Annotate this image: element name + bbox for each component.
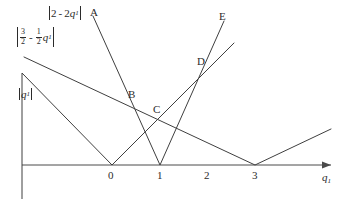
- label-minus: -: [29, 32, 33, 43]
- fraction-numerator: 3: [20, 28, 26, 36]
- function-label-abs-q1: q 1: [18, 88, 33, 100]
- x-axis: [22, 162, 331, 169]
- x-tick-label-1: 1: [157, 170, 163, 181]
- fraction-three-halves: 3 2: [20, 28, 26, 46]
- curve-abs-3halves-minus-half-q1: [24, 57, 331, 165]
- x-axis-label: q1: [322, 172, 331, 185]
- label-lead: 2: [51, 8, 57, 19]
- x-axis-label-sub: 1: [328, 177, 332, 185]
- fraction-numerator: 1: [36, 28, 42, 36]
- abs-bar-right: [80, 6, 81, 20]
- figure-canvas: 2 - 2 q 1 3 2 - 1 2 q 1 q 1 A B C D E 0 …: [0, 0, 342, 199]
- x-axis-arrowhead: [322, 162, 331, 169]
- abs-bar-right: [53, 27, 54, 47]
- function-label-abs-3halves-minus-half-q1: 3 2 - 1 2 q 1: [16, 27, 55, 47]
- abs-bar-left: [19, 88, 20, 100]
- label-sub: 1: [75, 10, 79, 17]
- point-label-d: D: [197, 56, 205, 67]
- point-label-c: C: [153, 104, 160, 115]
- label-minus: -: [59, 8, 63, 19]
- point-label-a: A: [90, 7, 98, 18]
- abs-bar-left: [49, 6, 50, 20]
- fraction-denominator: 2: [20, 37, 26, 46]
- abs-bar-left: [17, 27, 18, 47]
- label-sub: 1: [48, 34, 52, 41]
- point-label-e: E: [219, 11, 226, 22]
- curve-abs-2-minus-2q1: [93, 16, 224, 165]
- point-label-b: B: [128, 89, 135, 100]
- x-tick-label-3: 3: [252, 170, 258, 181]
- fraction-one-half: 1 2: [36, 28, 42, 46]
- fraction-denominator: 2: [36, 37, 42, 46]
- x-tick-label-0: 0: [108, 170, 114, 181]
- x-tick-label-2: 2: [204, 170, 210, 181]
- label-sub: 1: [27, 91, 31, 98]
- abs-bar-right: [31, 88, 32, 100]
- function-label-abs-2-minus-2q1: 2 - 2 q 1: [48, 6, 82, 20]
